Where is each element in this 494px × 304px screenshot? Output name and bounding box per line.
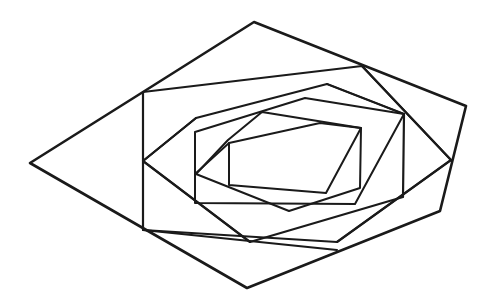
line-drawing bbox=[0, 0, 494, 304]
spiral-line-5 bbox=[143, 118, 196, 161]
hexagon-5-inner bbox=[229, 123, 361, 193]
spiral-hexagon-diagram bbox=[0, 0, 494, 304]
hexagon-3 bbox=[195, 98, 404, 204]
spiral-line-7 bbox=[195, 143, 229, 174]
spiral-line-1 bbox=[362, 66, 451, 160]
hexagon-4 bbox=[196, 112, 361, 211]
hexagon-0-outer bbox=[30, 22, 466, 288]
